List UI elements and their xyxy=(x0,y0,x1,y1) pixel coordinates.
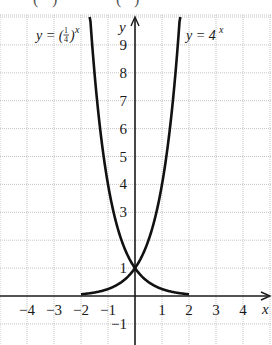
cropped-heading-remnant: ( ) ( ) xyxy=(33,0,139,8)
curve--1-4-x xyxy=(90,17,189,294)
x-tick-label: 1 xyxy=(158,302,166,318)
x-tick-label: −3 xyxy=(46,302,62,318)
svg-text:1: 1 xyxy=(64,26,68,35)
x-axis-label: x xyxy=(261,301,269,317)
y-tick-label: 5 xyxy=(120,149,128,165)
y-tick-label: 8 xyxy=(120,65,128,81)
svg-text:y = 4: y = 4 xyxy=(184,28,216,43)
exponential-graph: ( ) ( ) −4−3−2−11234−113456789 y x y = (… xyxy=(0,0,272,345)
svg-text:): ) xyxy=(134,0,139,8)
svg-text:x: x xyxy=(74,24,80,35)
svg-text:y = (: y = ( xyxy=(34,28,65,44)
tick-labels: −4−3−2−11234−113456789 xyxy=(19,37,247,332)
y-tick-label: 6 xyxy=(120,121,128,137)
y-axis-label: y xyxy=(117,19,126,35)
x-tick-label: 2 xyxy=(185,302,193,318)
x-tick-label: −2 xyxy=(73,302,89,318)
equation-label-quarter-power: y = ( 1 4 ) x xyxy=(34,24,80,44)
y-tick-label: 4 xyxy=(120,176,128,192)
y-tick-label: 1 xyxy=(120,260,128,276)
x-tick-label: 3 xyxy=(212,302,220,318)
axes xyxy=(0,17,270,345)
equation-label-four-power: y = 4 x xyxy=(184,24,224,43)
svg-text:(: ( xyxy=(116,0,121,8)
svg-text:): ) xyxy=(52,0,57,8)
y-tick-label: 9 xyxy=(120,37,128,53)
y-tick-label: 7 xyxy=(120,93,128,109)
x-tick-label: −4 xyxy=(19,302,35,318)
svg-text:x: x xyxy=(218,24,224,35)
curve-4-x xyxy=(81,17,180,294)
x-tick-label: 4 xyxy=(239,302,247,318)
y-tick-label: 3 xyxy=(120,204,128,220)
svg-text:4: 4 xyxy=(64,35,68,44)
y-tick-label: −1 xyxy=(111,316,127,332)
svg-text:(: ( xyxy=(33,0,38,8)
